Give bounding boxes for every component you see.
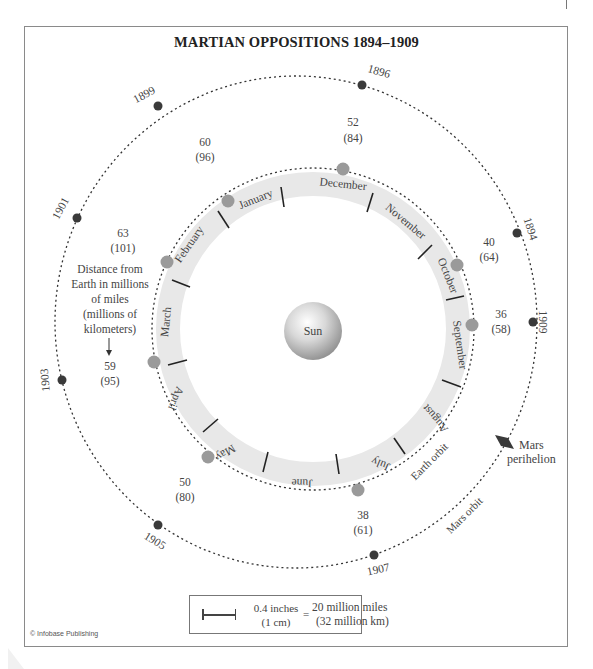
distance-km-1896: (84) [343,132,362,145]
distance-miles-1903: 59 [104,360,116,372]
year-label-1909: 1909 [537,311,549,334]
distance-km-1894: (64) [479,251,498,264]
distance-km-1901: (101) [111,242,136,255]
down-arrow-icon [106,338,112,356]
distance-km-1907: (61) [353,524,372,537]
distance-km-1905: (80) [175,491,194,504]
distance-note-line-1: Distance from [77,263,143,275]
year-label-1896: 1896 [366,62,392,80]
earth-dot-1894 [451,259,464,272]
earth-dot-1907 [352,484,365,497]
perihelion-label-2: perihelion [507,452,556,466]
distance-miles-1894: 40 [483,236,495,248]
mars-orbit-label: Mars orbit [444,495,485,536]
earth-dot-1903 [148,356,161,369]
scale-miles: 20 million miles [312,601,387,613]
mars-dot-1901 [73,214,82,223]
mars-dot-1894 [513,229,522,238]
mars-dot-1909 [529,318,538,327]
distance-miles-1905: 50 [179,476,191,488]
distance-miles-1909: 36 [495,308,507,320]
mars-dot-1907 [370,551,379,560]
mars-dot-1896 [358,81,367,90]
earth-dot-1896 [337,163,350,176]
scale-cm: (1 cm) [251,615,301,629]
month-label-june: June [291,477,312,490]
scale-legend: 0.4 inches (1 cm) = 20 million miles (32… [189,595,362,634]
year-label-1907: 1907 [366,561,391,578]
sun-label: Sun [304,324,323,338]
mars-dot-1903 [58,376,67,385]
year-label-1903: 1903 [38,368,52,392]
scale-km: (32 million km) [316,615,389,627]
distance-note-line-3: of miles [91,293,129,305]
earth-dot-1901 [161,256,174,269]
scale-inches: 0.4 inches [251,601,301,615]
mars-dot-1899 [154,102,163,111]
distance-miles-1901: 63 [117,227,129,239]
publisher-credit: © Infobase Publishing [30,630,98,637]
earth-dot-1909 [466,319,479,332]
distance-note-line-5: kilometers) [84,323,137,336]
mars-dot-1905 [154,521,163,530]
year-label-1894: 1894 [522,216,541,242]
perihelion-marker-icon [495,435,514,449]
year-label-1899: 1899 [131,84,157,106]
distance-note: Distance from Earth in millions of miles… [71,263,149,336]
distance-miles-1896: 52 [347,116,359,128]
earth-dot-1899 [222,195,235,208]
scale-bar-icon [202,614,236,616]
page-corner-shadow [8,648,24,669]
earth-dot-1905 [202,451,215,464]
distance-km-1899: (96) [195,151,214,164]
orbit-diagram: December November October September Augu… [0,0,593,669]
perihelion-label-1: Mars [519,438,544,452]
distance-km-1903: (95) [100,375,119,388]
distance-note-line-2: Earth in millions [71,278,149,290]
year-label-1901: 1901 [50,195,72,221]
distance-note-line-4: (millions of [83,308,137,321]
distance-miles-1907: 38 [357,509,369,521]
scale-equals: = [303,608,309,620]
year-label-1905: 1905 [142,529,168,551]
distance-miles-1899: 60 [199,136,211,148]
distance-km-1909: (58) [491,323,510,336]
